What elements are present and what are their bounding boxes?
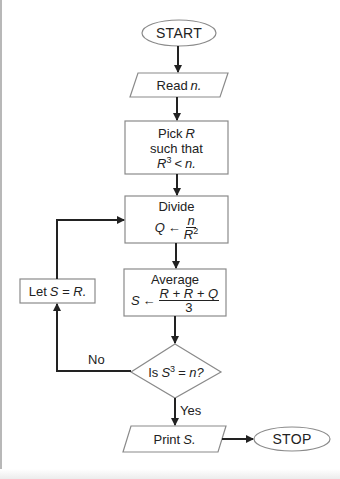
average-numerator: R + R + Q <box>159 287 220 301</box>
decision-label: IsS3= n? <box>131 358 221 386</box>
divide-lhs: Q <box>155 220 165 235</box>
yes-edge-label: Yes <box>180 403 201 418</box>
no-edge-label: No <box>88 352 105 367</box>
average-arrow: ← <box>143 293 156 308</box>
pick-cond-exp: 3 <box>166 154 171 164</box>
read-text: Read <box>157 78 188 93</box>
divide-title: Divide <box>158 199 194 214</box>
pick-condition-text: such that <box>150 141 203 156</box>
arrow-let-to-divide <box>57 220 124 279</box>
divide-denominator: R <box>184 227 193 242</box>
divide-label: Divide Q ← n R2 <box>125 197 228 243</box>
decision-rest: = n? <box>178 365 204 380</box>
print-var: S. <box>183 432 195 447</box>
average-title: Average <box>151 272 199 287</box>
average-lhs: S <box>131 293 140 308</box>
pick-cond-op: < <box>174 156 182 171</box>
let-prefix: Let <box>29 284 47 299</box>
let-label: LetS = R. <box>20 279 95 303</box>
divide-exp: 2 <box>193 226 198 236</box>
pick-cond-rhs: n. <box>185 156 196 171</box>
decision-exp: 3 <box>170 363 175 373</box>
divide-arrow: ← <box>168 220 181 235</box>
pick-text: Pick <box>158 126 183 141</box>
let-expr: S = R. <box>50 284 87 299</box>
pick-var: R <box>186 126 195 141</box>
average-label: Average S ← R + R + Q 3 <box>124 270 226 316</box>
stop-label: STOP <box>254 427 330 451</box>
read-label: Readn. <box>130 73 228 97</box>
decision-var: S <box>161 365 170 380</box>
read-var: n. <box>191 78 202 93</box>
start-label: START <box>142 20 216 46</box>
divide-fraction: n R2 <box>184 214 198 241</box>
decision-prefix: Is <box>148 365 158 380</box>
average-fraction: R + R + Q 3 <box>159 287 220 314</box>
print-prefix: Print <box>153 432 180 447</box>
stop-text: STOP <box>272 432 311 447</box>
print-label: PrintS. <box>123 426 226 452</box>
start-text: START <box>156 26 202 41</box>
average-denominator: 3 <box>185 301 192 314</box>
pick-label: PickR such that R3<n. <box>125 122 228 174</box>
